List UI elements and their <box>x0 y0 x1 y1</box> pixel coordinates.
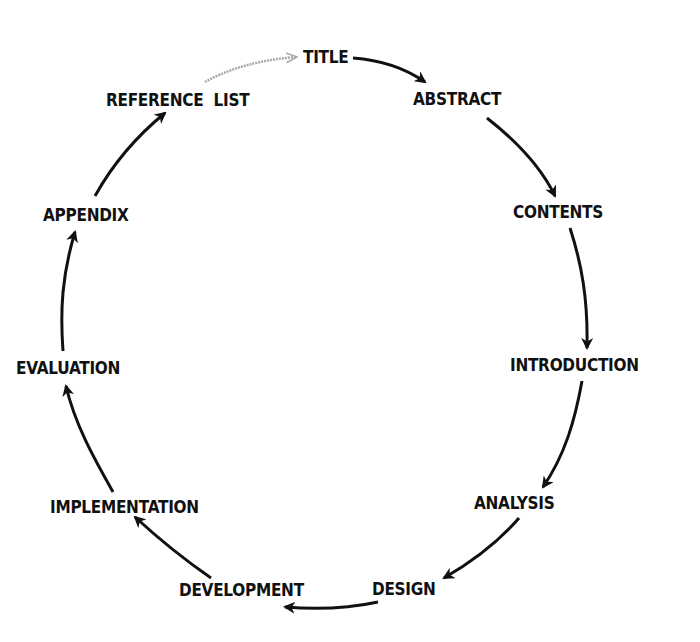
arrows-layer <box>0 0 700 642</box>
node-evaluation: EVALUATION <box>16 358 120 378</box>
node-reference-list: REFERENCE LIST <box>106 90 249 110</box>
node-abstract: ABSTRACT <box>413 89 501 109</box>
arrow-implementation-to-evaluation <box>66 386 113 492</box>
node-introduction: INTRODUCTION <box>510 355 639 375</box>
node-implementation: IMPLEMENTATION <box>50 497 199 517</box>
arrow-abstract-to-contents <box>487 118 555 196</box>
arrow-analysis-to-design <box>444 518 519 578</box>
node-design: DESIGN <box>372 579 436 599</box>
node-analysis: ANALYSIS <box>474 493 555 513</box>
arrow-design-to-development <box>285 602 378 608</box>
arrow-introduction-to-analysis <box>543 381 582 487</box>
arrow-evaluation-to-appendix <box>62 232 75 351</box>
arrow-reference-list-to-title <box>205 57 296 82</box>
node-title: TITLE <box>303 47 348 67</box>
arrow-development-to-implementation <box>135 517 211 578</box>
arrow-contents-to-introduction <box>570 228 587 348</box>
arrow-title-to-abstract <box>353 58 425 82</box>
node-development: DEVELOPMENT <box>179 580 304 600</box>
node-contents: CONTENTS <box>513 202 603 222</box>
node-appendix: APPENDIX <box>43 205 129 225</box>
report-structure-cycle-diagram: TITLE ABSTRACT CONTENTS INTRODUCTION ANA… <box>0 0 700 642</box>
arrow-appendix-to-reference-list <box>95 113 165 196</box>
